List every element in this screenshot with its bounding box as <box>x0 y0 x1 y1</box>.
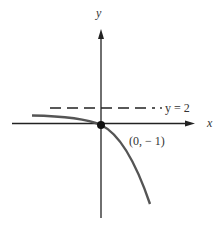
point-marker <box>97 121 105 129</box>
y-axis-label: y <box>95 6 102 20</box>
point-label: (0, − 1) <box>129 134 165 148</box>
asymptote-label: y = 2 <box>165 101 190 115</box>
exponential-curve <box>32 116 150 205</box>
x-axis-label: x <box>206 116 213 130</box>
x-axis-arrow-icon <box>185 121 195 127</box>
graph: y x y = 2 (0, − 1) <box>0 0 223 227</box>
asymptote-label-dot <box>160 107 162 109</box>
y-axis-arrow-icon <box>98 29 104 39</box>
